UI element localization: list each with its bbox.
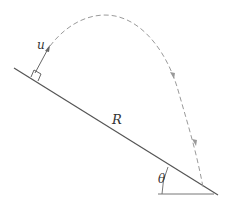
velocity-arrowhead-icon [45, 45, 50, 52]
diagram-svg [0, 0, 229, 209]
incline-line [14, 68, 218, 195]
incline-shading [12, 68, 218, 205]
angle-label: θ [158, 172, 165, 186]
range-label: R [112, 112, 122, 127]
diagram-canvas: u R θ [0, 0, 229, 209]
velocity-label: u [37, 38, 45, 52]
trajectory-arrow-icon-2 [192, 139, 197, 146]
trajectory-path [50, 15, 203, 187]
